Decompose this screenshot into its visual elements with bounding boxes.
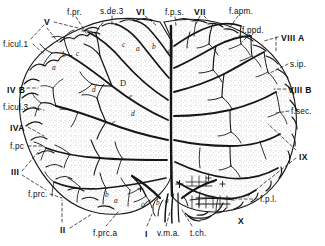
label-lobule-4a: IVA — [10, 124, 25, 133]
label-lobule-6: VI — [136, 8, 145, 17]
label-lobule-3: III — [11, 168, 19, 177]
label-f-prc-a: f.prc.a — [93, 230, 117, 238]
label-s-de-3: s.de.3 — [100, 8, 124, 16]
label-lobule-7: VII — [194, 8, 206, 17]
label-f-sec: f.sec. — [291, 108, 312, 116]
label-lobule-9: IX — [299, 153, 308, 162]
folium-letter-a-0: a — [52, 63, 56, 72]
leader-lobule-2-diag — [70, 214, 92, 228]
leader-f-icul-1-link — [30, 25, 44, 40]
leader-lobule-5 — [47, 28, 58, 42]
label-s-ip: s.ip. — [290, 61, 306, 69]
leader-f-icul-1 — [33, 44, 44, 54]
label-v-m-a: v.m.a. — [157, 230, 180, 238]
folium-letter-e-6: e — [129, 92, 132, 101]
folium-letter-b-10: b — [152, 42, 156, 51]
folium-letter-a-9: a — [136, 44, 140, 53]
folium-letter-b-12: b — [105, 190, 109, 199]
label-lobule-4b: IV B — [7, 86, 25, 95]
label-f-apm: f.apm. — [229, 8, 253, 16]
label-f-p-s: f.p.s. — [165, 9, 184, 17]
label-f-ppd: f.ppd. — [242, 27, 264, 35]
folium-letter-D-5: D — [120, 79, 126, 88]
label-lobule-8a: VIII A — [281, 34, 305, 43]
label-lobule-2: II — [60, 226, 66, 235]
folium-letter-d-7: d — [131, 109, 135, 118]
leader-lobule-5-b — [54, 22, 86, 30]
folium-letter-a-13: a — [114, 196, 118, 205]
label-lobule-8b: VIII B — [288, 86, 312, 95]
label-f-prc: f.prc. — [28, 191, 47, 199]
folium-letter-c-14: c — [141, 200, 144, 209]
label-f-p-l: f.p.l. — [260, 196, 277, 204]
label-lobule-1: I — [145, 230, 148, 239]
label-f-pr: f.pr. — [67, 9, 82, 17]
label-lobule-5: V — [44, 18, 50, 27]
label-lobule-10: X — [238, 217, 244, 226]
label-f-pc: f.pc — [10, 143, 24, 151]
leader-v-m-a — [166, 212, 170, 226]
leader-lobule-1 — [147, 214, 152, 226]
folium-letter-c-8: c — [122, 40, 125, 49]
leader-lobule-3-lower — [22, 175, 46, 190]
folium-letter-e-4: e — [112, 118, 115, 127]
cerebellum-illustration — [0, 0, 325, 246]
label-t-ch: t.ch. — [190, 230, 206, 238]
folium-letter-c-2: c — [76, 49, 79, 58]
folium-letter-a-16: a — [165, 196, 169, 205]
folium-letter-d-3: d — [92, 85, 96, 94]
folium-letter-b-1: b — [62, 50, 66, 59]
label-f-icul-3: f.icul.3 — [3, 104, 28, 112]
label-f-icul-1: f.icul.1 — [3, 41, 28, 49]
folium-letter-c-11: c — [168, 46, 171, 55]
folium-letter-b-15: b — [156, 198, 160, 207]
cerebellum-figure: Vf.pr.s.de.3VIf.p.s.VIIf.apm.f.ppd.f.icu… — [0, 0, 325, 246]
